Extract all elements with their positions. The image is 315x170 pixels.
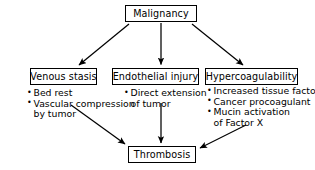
node-hypercoagulability: Hypercoagulability — [205, 68, 298, 85]
list-item: Bed rest — [27, 88, 135, 99]
list-item: Increased tissue factor — [207, 86, 315, 97]
endothelial-injury-detail-list: Direct extensionof tumor — [124, 88, 207, 109]
arrow-malignancy-to-hypercoagulability — [192, 24, 243, 65]
list-item: Direct extension — [124, 88, 207, 99]
list-item: of tumor — [124, 99, 207, 110]
arrow-hypercoagulability-to-thrombosis — [200, 125, 246, 148]
node-hypercoagulability-label: Hypercoagulability — [204, 72, 300, 82]
arrow-malignancy-to-venous-stasis — [79, 24, 129, 65]
hypercoagulability-detail-list: Increased tissue factorCancer procoagula… — [207, 86, 315, 128]
node-endothelial-injury-label: Endothelial injury — [111, 72, 201, 82]
flowchart-diagram: Malignancy Venous stasis Endothelial inj… — [0, 0, 315, 170]
node-endothelial-injury: Endothelial injury — [112, 68, 199, 85]
venous-stasis-detail-list: Bed restVascular compressionby tumor — [27, 88, 135, 120]
node-venous-stasis-label: Venous stasis — [28, 72, 98, 82]
list-item: of Factor X — [207, 118, 315, 129]
node-malignancy-label: Malignancy — [131, 9, 191, 19]
node-venous-stasis: Venous stasis — [30, 68, 97, 85]
list-item: by tumor — [27, 109, 135, 120]
node-malignancy: Malignancy — [125, 5, 197, 22]
node-thrombosis-label: Thrombosis — [132, 150, 193, 160]
node-thrombosis: Thrombosis — [128, 146, 196, 163]
